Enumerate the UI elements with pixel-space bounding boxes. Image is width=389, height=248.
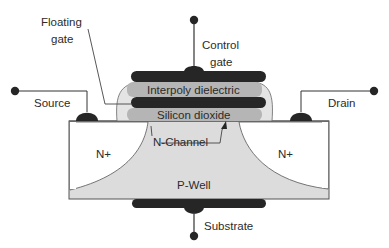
drain-contact (290, 113, 312, 121)
floating-gate-transistor-diagram: Floating gate Control gate Source Drain … (0, 0, 389, 248)
interpoly-dielectric-label: Interpoly dielectric (147, 84, 240, 96)
substrate-contact (132, 199, 266, 208)
floating-gate-label-line1: Floating (41, 16, 82, 28)
control-gate-label-line1: Control (202, 39, 239, 51)
n-plus-right-label: N+ (278, 148, 293, 160)
source-terminal[interactable] (11, 87, 19, 95)
source-label: Source (34, 97, 70, 109)
silicon-dioxide-label: Silicon dioxide (157, 109, 231, 121)
p-well-label: P-Well (177, 179, 211, 191)
control-gate-label-line2: gate (210, 56, 232, 68)
control-gate-terminal[interactable] (190, 16, 198, 24)
control-gate-contact (184, 66, 204, 72)
drain-label: Drain (328, 97, 355, 109)
control-gate (131, 71, 266, 82)
floating-gate-label-line2: gate (51, 33, 73, 45)
floating-gate (131, 97, 266, 108)
n-plus-left-label: N+ (96, 148, 111, 160)
drain-terminal[interactable] (370, 87, 378, 95)
substrate-terminal[interactable] (190, 232, 198, 240)
source-contact (76, 113, 98, 121)
n-channel-label: N-Channel (153, 136, 208, 148)
substrate-label: Substrate (204, 220, 253, 232)
